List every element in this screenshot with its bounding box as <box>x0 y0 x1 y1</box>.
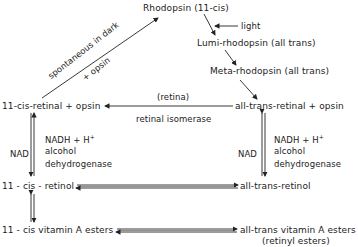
node-lumi-rhodopsin: Lumi-rhodopsin (all trans) <box>197 39 316 48</box>
node-cis-retinol: 11 - cis - retinol <box>2 182 74 191</box>
rhodopsin-to-lumi-arrow <box>204 14 215 35</box>
node-trans-esters: all-trans vitamin A esters <box>240 226 356 235</box>
adh-left-line1: alcohol <box>45 147 76 156</box>
adh-right-line1: alcohol <box>274 147 305 156</box>
adh-right-line2: dehydrogenase <box>274 160 341 169</box>
lumi-to-meta-arrow <box>225 50 236 65</box>
meta-to-transretinal-arrow <box>240 80 257 99</box>
adh-left-line2: dehydrogenase <box>45 160 112 169</box>
node-trans-esters-sub: (retinyl esters) <box>262 237 330 246</box>
isomerase-label: retinal isomerase <box>136 115 211 124</box>
node-trans-retinol: all-trans-retinol <box>240 182 311 191</box>
node-cis-esters: 11 - cis vitamin A esters <box>2 226 113 235</box>
node-rhodopsin: Rhodopsin (11-cis) <box>143 4 229 13</box>
nad-right-label: NAD <box>238 150 257 159</box>
node-cis-retinal-opsin: 11-cis-retinal + opsin <box>2 102 100 111</box>
nadh-left-label: NADH + H+ <box>45 134 95 144</box>
nad-left-label: NAD <box>10 150 29 159</box>
nadh-right-label: NADH + H+ <box>274 134 324 144</box>
node-meta-rhodopsin: Meta-rhodopsin (all trans) <box>210 67 329 76</box>
retina-label: (retina) <box>157 93 189 102</box>
node-trans-retinal-opsin: all-trans-retinal + opsin <box>235 102 344 111</box>
light-label: light <box>241 22 260 31</box>
